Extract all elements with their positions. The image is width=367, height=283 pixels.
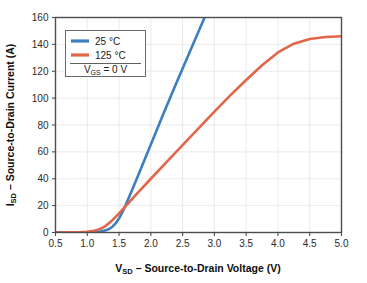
x-tick-label: 4.0 — [271, 238, 285, 249]
chart-figure: 0.51.01.52.02.53.03.54.04.55.0 020406080… — [0, 0, 367, 283]
y-tick-label: 80 — [37, 120, 49, 131]
x-tick-label: 0.5 — [49, 238, 63, 249]
svg-text:ISD – Source-to-Drain Current: ISD – Source-to-Drain Current (A) — [4, 44, 18, 207]
y-tick-label: 60 — [37, 146, 49, 157]
x-axis-title: VSD – Source-to-Drain Voltage (V) — [115, 262, 280, 276]
legend-label-25c: 25 °C — [95, 36, 120, 47]
chart-legend: 25 °C 125 °C VGS = 0 V — [66, 31, 146, 77]
x-tick-label: 4.5 — [303, 238, 317, 249]
y-tick-label: 20 — [37, 200, 49, 211]
y-axis-tick-labels: 020406080100120140160 — [32, 12, 49, 238]
y-tick-label: 0 — [43, 227, 49, 238]
svg-text:VSD – Source-to-Drain Voltage: VSD – Source-to-Drain Voltage (V) — [115, 262, 280, 276]
x-tick-label: 2.5 — [176, 238, 190, 249]
x-tick-label: 3.5 — [239, 238, 253, 249]
y-tick-label: 140 — [32, 39, 49, 50]
y-tick-label: 160 — [32, 12, 49, 23]
y-tick-label: 40 — [37, 173, 49, 184]
legend-label-125c: 125 °C — [95, 50, 126, 61]
x-tick-label: 2.0 — [144, 238, 158, 249]
x-tick-label: 3.0 — [207, 238, 221, 249]
x-tick-label: 5.0 — [335, 238, 349, 249]
x-tick-label: 1.0 — [80, 238, 94, 249]
x-tick-label: 1.5 — [112, 238, 126, 249]
legend-annotation-vgs: VGS = 0 V — [84, 64, 128, 76]
x-axis-tick-labels: 0.51.01.52.02.53.03.54.04.55.0 — [49, 238, 349, 249]
y-tick-label: 120 — [32, 66, 49, 77]
y-tick-label: 100 — [32, 93, 49, 104]
iv-curve-chart: 0.51.01.52.02.53.03.54.04.55.0 020406080… — [0, 0, 367, 283]
y-axis-title: ISD – Source-to-Drain Current (A) — [4, 44, 18, 207]
